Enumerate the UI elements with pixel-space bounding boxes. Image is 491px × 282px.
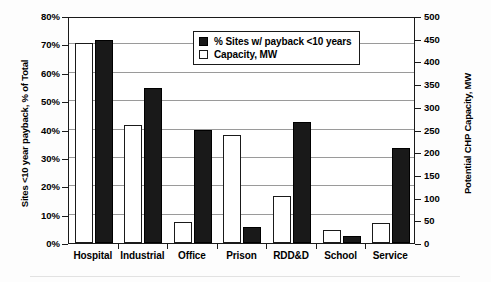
left-tick-label: 60% (0, 69, 60, 79)
category-label-service: Service (365, 250, 415, 261)
bar-group (119, 18, 169, 243)
bar-group (366, 18, 416, 243)
category-tick (316, 244, 317, 249)
right-tick-label: 350 (424, 80, 440, 90)
left-tick-label: 0% (0, 239, 60, 249)
category-label-office: Office (167, 250, 217, 261)
right-tick-label: 300 (424, 103, 440, 113)
category-tick (365, 244, 366, 249)
right-tick-label: 450 (424, 35, 440, 45)
left-tick-label: 70% (0, 40, 60, 50)
category-tick (167, 244, 168, 249)
bar-group (69, 18, 119, 243)
category-label-school: School (316, 250, 366, 261)
scan-artifact (30, 276, 460, 277)
legend-label-capacity: Capacity, MW (214, 49, 277, 60)
right-tick-label: 250 (424, 126, 440, 136)
right-tick-label: 100 (424, 194, 440, 204)
right-tick-label: 150 (424, 171, 440, 181)
legend-item-capacity: Capacity, MW (199, 48, 352, 61)
bar-sites-payback (144, 88, 162, 243)
bar-sites-payback (293, 122, 311, 243)
right-tick-label: 200 (424, 148, 440, 158)
right-axis-title: Potential CHP Capacity, MW (462, 24, 473, 244)
bar-capacity (223, 135, 241, 243)
left-tick-label: 80% (0, 12, 60, 22)
bar-capacity (323, 230, 341, 243)
bar-capacity (75, 43, 93, 243)
right-tick-label: 500 (424, 12, 440, 22)
bar-sites-payback (194, 130, 212, 244)
category-label-industrial: Industrial (118, 250, 168, 261)
category-tick (118, 244, 119, 249)
right-tick-label: 0 (424, 239, 429, 249)
bar-sites-payback (343, 236, 361, 243)
bar-sites-payback (243, 227, 261, 243)
left-tick-label: 10% (0, 211, 60, 221)
right-tick-label: 50 (424, 216, 435, 226)
bar-sites-payback (95, 40, 113, 243)
legend-swatch-light-icon (199, 50, 208, 59)
legend-label-sites: % Sites w/ payback <10 years (214, 36, 352, 47)
category-tick (217, 244, 218, 249)
bar-sites-payback (392, 148, 410, 243)
right-tick-label: 400 (424, 57, 440, 67)
bar-capacity (372, 223, 390, 243)
legend-item-sites: % Sites w/ payback <10 years (199, 35, 352, 48)
left-tick-mark (62, 244, 68, 245)
chart-figure: Sites <10 year payback, % of Total Poten… (0, 0, 491, 282)
bar-capacity (174, 222, 192, 243)
bar-capacity (273, 196, 291, 243)
category-label-prison: Prison (217, 250, 267, 261)
left-tick-label: 30% (0, 154, 60, 164)
category-label-hospital: Hospital (68, 250, 118, 261)
left-tick-label: 20% (0, 182, 60, 192)
left-tick-label: 50% (0, 97, 60, 107)
right-tick-mark (415, 244, 421, 245)
chart-legend: % Sites w/ payback <10 years Capacity, M… (193, 31, 360, 65)
left-tick-label: 40% (0, 126, 60, 136)
bar-capacity (124, 125, 142, 243)
category-label-rdd-d: RDD&D (266, 250, 316, 261)
category-tick (266, 244, 267, 249)
legend-swatch-dark-icon (199, 37, 208, 46)
